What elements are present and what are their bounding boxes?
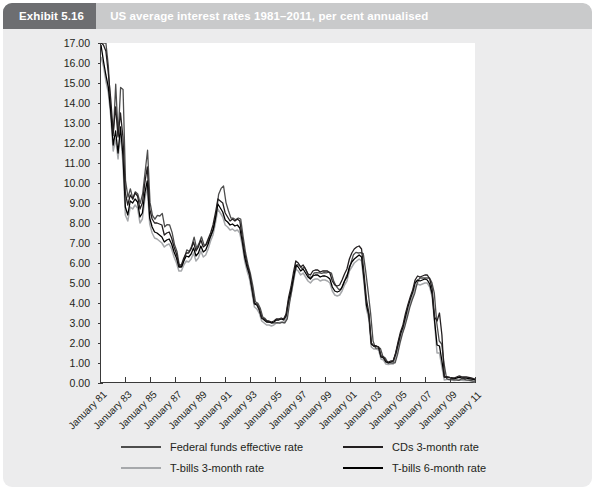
y-axis-tick-label: 17.00: [64, 37, 90, 49]
legend-item[interactable]: CDs 3-month rate: [343, 441, 543, 453]
y-axis-tick-label: 1.00: [70, 357, 90, 369]
y-axis-tick-label: 15.00: [64, 77, 90, 89]
exhibit-page: Exhibit 5.16 US average interest rates 1…: [0, 0, 595, 497]
x-axis-tick: [350, 377, 351, 383]
legend-item[interactable]: T-bills 6-month rate: [343, 462, 543, 474]
legend-item[interactable]: Federal funds effective rate: [121, 441, 343, 453]
legend-label: T-bills 6-month rate: [392, 462, 486, 474]
y-axis-tick-label: 6.00: [70, 257, 90, 269]
x-axis-tick: [275, 377, 276, 383]
series-line: [101, 43, 476, 379]
x-axis-tick: [475, 377, 476, 383]
y-axis-tick-label: 9.00: [70, 197, 90, 209]
x-axis-tick: [125, 377, 126, 383]
series-line: [101, 43, 476, 381]
legend-swatch-icon: [121, 467, 161, 469]
x-axis-tick: [425, 377, 426, 383]
x-axis-tick: [400, 377, 401, 383]
y-axis-tick-label: 5.00: [70, 277, 90, 289]
x-axis-tick: [150, 377, 151, 383]
y-axis-tick-label: 10.00: [64, 177, 90, 189]
y-axis-tick-label: 3.00: [70, 317, 90, 329]
exhibit-card: Exhibit 5.16 US average interest rates 1…: [3, 3, 592, 487]
y-axis-tick-label: 16.00: [64, 57, 90, 69]
y-axis-tick-label: 13.00: [64, 117, 90, 129]
y-axis-tick-label: 0.00: [70, 377, 90, 389]
x-axis-tick: [250, 377, 251, 383]
legend-label: CDs 3-month rate: [392, 441, 479, 453]
y-axis-tick-label: 2.00: [70, 337, 90, 349]
x-axis-tick: [225, 377, 226, 383]
series-line: [101, 57, 476, 382]
y-axis-tick-label: 14.00: [64, 97, 90, 109]
legend-swatch-icon: [121, 446, 161, 448]
exhibit-header: Exhibit 5.16 US average interest rates 1…: [3, 3, 592, 29]
x-axis-tick: [200, 377, 201, 383]
x-axis-tick: [175, 377, 176, 383]
y-axis-tick-label: 7.00: [70, 237, 90, 249]
x-axis-tick: [325, 377, 326, 383]
x-axis-tick: [300, 377, 301, 383]
x-axis-tick: [100, 377, 101, 383]
y-axis-tick-label: 4.00: [70, 297, 90, 309]
plot-area: [100, 43, 475, 383]
x-axis: January 81January 83January 85January 87…: [100, 384, 500, 444]
legend-label: Federal funds effective rate: [170, 441, 303, 453]
line-series-svg: [101, 43, 476, 383]
chart-legend: Federal funds effective rateCDs 3-month …: [121, 436, 541, 478]
legend-item[interactable]: T-bills 3-month rate: [121, 462, 343, 474]
x-axis-tick: [450, 377, 451, 383]
y-axis-tick-label: 12.00: [64, 137, 90, 149]
plot-wrapper: [100, 43, 475, 383]
y-axis-tick-label: 11.00: [65, 157, 91, 169]
legend-label: T-bills 3-month rate: [170, 462, 264, 474]
exhibit-title: US average interest rates 1981–2011, per…: [96, 10, 428, 22]
legend-swatch-icon: [343, 467, 383, 469]
series-line: [101, 45, 476, 380]
y-axis: 0.001.002.003.004.005.006.007.008.009.00…: [43, 43, 98, 388]
legend-swatch-icon: [343, 446, 383, 448]
y-axis-tick-label: 8.00: [70, 217, 90, 229]
x-axis-tick: [375, 377, 376, 383]
exhibit-number-badge: Exhibit 5.16: [3, 3, 96, 29]
